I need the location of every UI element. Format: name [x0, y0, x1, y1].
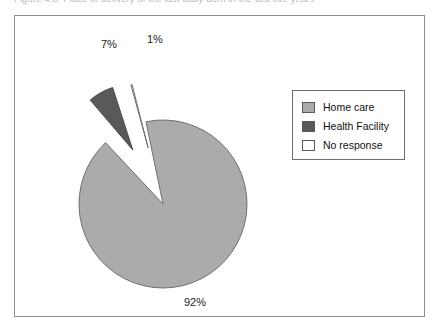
- legend-swatch-health-facility: [302, 121, 315, 132]
- figure-caption-strip: Figure 4.3: Place of delivery of the las…: [0, 0, 442, 11]
- chart-frame: [14, 15, 425, 317]
- legend-swatch-no-response: [302, 140, 315, 151]
- slice-label-no-response: 1%: [147, 33, 163, 45]
- figure-caption: Figure 4.3: Place of delivery of the las…: [14, 0, 314, 4]
- legend-swatch-home-care: [302, 102, 315, 113]
- chart-legend: Home care Health Facility No response: [292, 90, 405, 160]
- legend-item-health-facility[interactable]: Health Facility: [302, 117, 404, 135]
- figure-root: Figure 4.3: Place of delivery of the las…: [0, 0, 442, 329]
- legend-label-health-facility: Health Facility: [323, 120, 389, 132]
- legend-item-home-care[interactable]: Home care: [302, 98, 404, 116]
- slice-label-home-care: 92%: [184, 296, 206, 308]
- legend-label-no-response: No response: [323, 139, 383, 151]
- legend-label-home-care: Home care: [323, 101, 374, 113]
- legend-item-no-response[interactable]: No response: [302, 136, 404, 154]
- slice-label-health-facility: 7%: [101, 38, 117, 50]
